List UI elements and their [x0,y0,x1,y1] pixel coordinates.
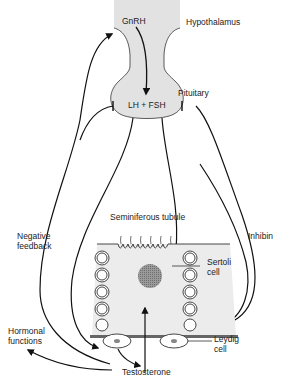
label-pituitary: Pituitary [178,88,209,98]
label-sertoli-cell: cell [207,267,220,277]
negative-feedback-pituitary-line [80,106,113,140]
label-lh-fsh: LH + FSH [128,100,166,110]
label-testosterone: Testosterone [122,367,171,377]
label-hypothalamus: Hypothalamus [186,17,240,27]
label-inhibin: Inhibin [248,231,273,241]
testosterone-to-hormonal-arrow [28,350,112,370]
label-seminiferous-tubule: Seminiferous tubule [110,212,185,222]
label-functions: functions [8,336,42,346]
seminiferous-tubule [90,236,238,338]
label-leydig-cell: cell [214,344,227,354]
label-leydig: Leydig [214,334,239,344]
label-negative: Negative [17,231,51,241]
label-hormonal: Hormonal [8,326,45,336]
label-sertoli: Sertoli [207,257,231,267]
leydig-to-testosterone-arrow [118,349,140,366]
label-feedback: feedback [17,241,52,251]
sertoli-nucleus [138,264,162,288]
label-gnrh: GnRH [122,16,146,26]
